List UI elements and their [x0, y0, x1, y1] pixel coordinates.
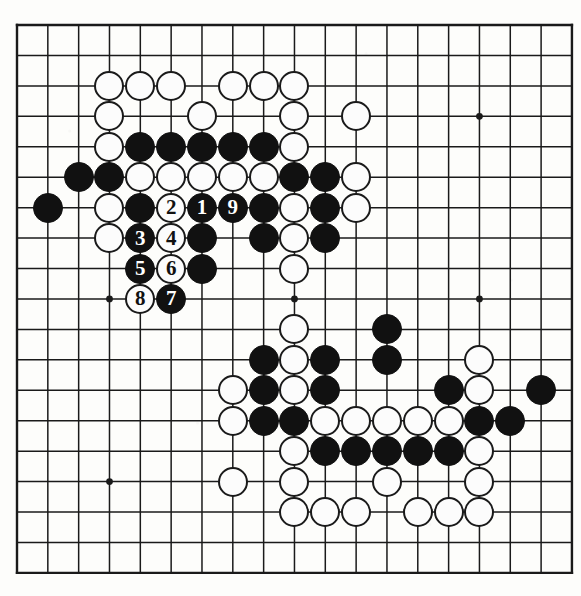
stone-white — [125, 162, 155, 192]
stone-white — [341, 162, 371, 192]
stone-white — [279, 436, 309, 466]
stone-black — [187, 223, 217, 253]
stone-white — [279, 497, 309, 527]
stone-white — [464, 497, 494, 527]
stone-white — [341, 406, 371, 436]
stone-black — [434, 436, 464, 466]
move-number-label: 3 — [135, 228, 146, 249]
stone-white — [464, 467, 494, 497]
stone-white — [125, 71, 155, 101]
stone-white — [341, 193, 371, 223]
stone-black — [310, 223, 340, 253]
stone-black — [372, 345, 402, 375]
move-number-label: 7 — [166, 288, 177, 309]
move-number-label: 6 — [166, 258, 177, 279]
stone-white — [94, 101, 124, 131]
move-number-label: 5 — [135, 258, 146, 279]
stone-white — [464, 375, 494, 405]
stone-black — [372, 314, 402, 344]
stone-black — [187, 132, 217, 162]
stone-white — [187, 101, 217, 131]
stone-black — [125, 193, 155, 223]
move-number-label: 9 — [228, 197, 239, 218]
stone-white — [279, 375, 309, 405]
stone-black — [495, 406, 525, 436]
numbered-stone-white-2: 2 — [156, 193, 186, 223]
stone-white — [372, 467, 402, 497]
stone-black — [310, 193, 340, 223]
stone-white — [310, 497, 340, 527]
go-board-diagram: 219345687 — [0, 0, 581, 596]
stone-black — [310, 345, 340, 375]
stone-black — [310, 436, 340, 466]
move-number-label: 8 — [135, 288, 146, 309]
stone-black — [526, 375, 556, 405]
numbered-stone-black-9: 9 — [218, 193, 248, 223]
stone-white — [310, 406, 340, 436]
stone-black — [249, 345, 279, 375]
stone-black — [310, 162, 340, 192]
stone-white — [403, 497, 433, 527]
stone-black — [341, 436, 371, 466]
stone-white — [218, 162, 248, 192]
stone-white — [279, 314, 309, 344]
stone-white — [341, 101, 371, 131]
stone-white — [218, 375, 248, 405]
stone-white — [218, 467, 248, 497]
stone-white — [187, 162, 217, 192]
stone-black — [125, 132, 155, 162]
stone-white — [94, 71, 124, 101]
move-number-label: 4 — [166, 228, 177, 249]
stone-black — [218, 132, 248, 162]
numbered-stone-black-3: 3 — [125, 223, 155, 253]
stone-black — [403, 436, 433, 466]
stone-black — [279, 162, 309, 192]
stone-white — [218, 406, 248, 436]
stone-white — [94, 132, 124, 162]
stone-white — [464, 345, 494, 375]
stone-white — [341, 497, 371, 527]
stone-white — [94, 223, 124, 253]
stone-white — [279, 193, 309, 223]
stone-white — [279, 132, 309, 162]
stone-black — [249, 193, 279, 223]
numbered-stone-black-5: 5 — [125, 254, 155, 284]
stone-white — [464, 436, 494, 466]
stone-black — [156, 132, 186, 162]
stone-black — [33, 193, 63, 223]
stone-white — [218, 71, 248, 101]
stone-black — [279, 406, 309, 436]
numbered-stone-white-4: 4 — [156, 223, 186, 253]
numbered-stone-black-7: 7 — [156, 284, 186, 314]
stone-black — [434, 375, 464, 405]
stone-black — [249, 375, 279, 405]
stone-black — [94, 162, 124, 192]
stone-white — [249, 162, 279, 192]
stone-white — [372, 406, 402, 436]
stone-white — [434, 497, 464, 527]
numbered-stone-black-1: 1 — [187, 193, 217, 223]
stone-black — [249, 223, 279, 253]
numbered-stone-white-6: 6 — [156, 254, 186, 284]
stone-layer: 219345687 — [0, 0, 581, 596]
stone-black — [464, 406, 494, 436]
stone-white — [249, 71, 279, 101]
stone-white — [94, 193, 124, 223]
stone-black — [310, 375, 340, 405]
stone-white — [279, 254, 309, 284]
stone-black — [249, 406, 279, 436]
stone-white — [403, 406, 433, 436]
stone-white — [279, 101, 309, 131]
stone-white — [279, 467, 309, 497]
numbered-stone-white-8: 8 — [125, 284, 155, 314]
stone-white — [156, 162, 186, 192]
stone-white — [279, 71, 309, 101]
stone-white — [156, 71, 186, 101]
stone-black — [64, 162, 94, 192]
stone-white — [279, 345, 309, 375]
stone-black — [372, 436, 402, 466]
stone-white — [434, 406, 464, 436]
stone-white — [279, 223, 309, 253]
stone-black — [187, 254, 217, 284]
stone-black — [249, 132, 279, 162]
